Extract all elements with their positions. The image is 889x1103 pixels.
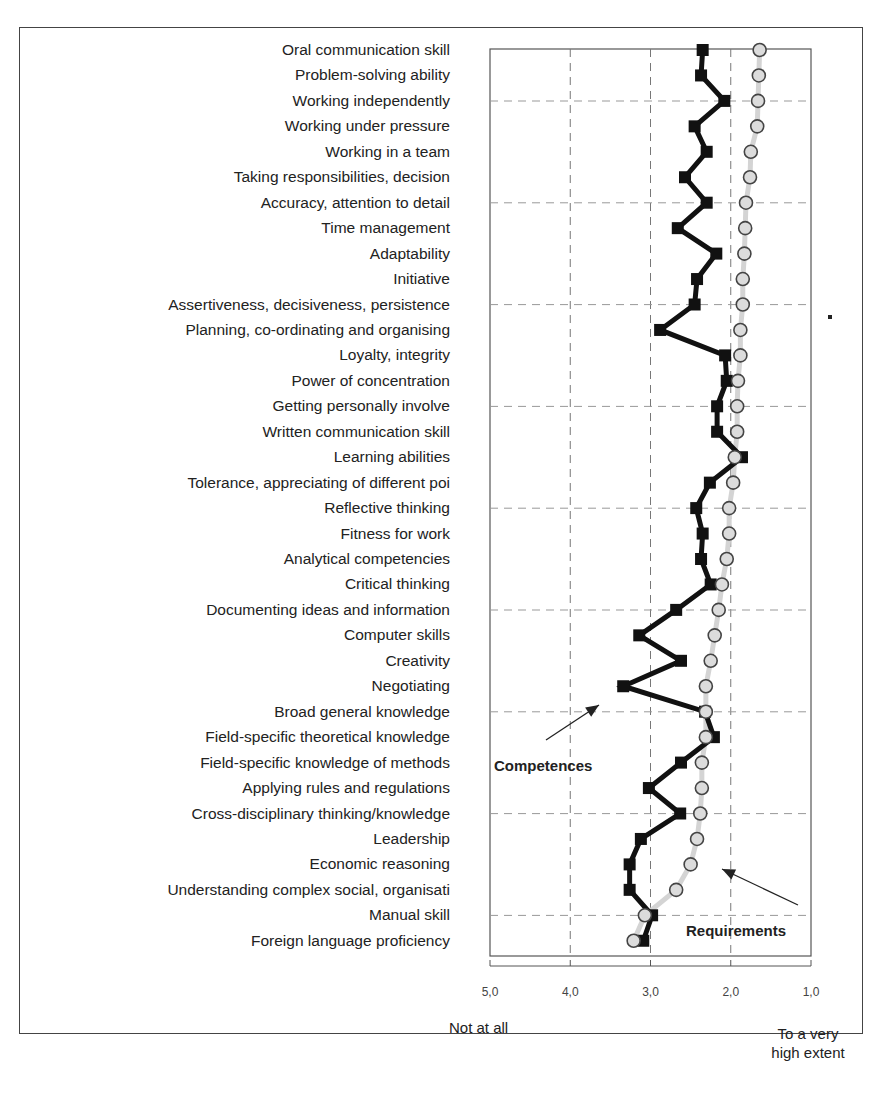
requirements-marker <box>731 425 744 438</box>
competences-marker <box>704 477 716 489</box>
scale-high-label: To a very high extent <box>763 1024 853 1062</box>
competences-marker <box>689 120 701 132</box>
competences-marker <box>711 400 723 412</box>
requirements-marker <box>744 171 757 184</box>
competences-marker <box>719 349 731 361</box>
requirements-marker <box>752 94 765 107</box>
competences-marker <box>672 222 684 234</box>
competences-marker <box>689 299 701 311</box>
competences-marker <box>643 782 655 794</box>
requirements-line <box>634 50 760 941</box>
competences-marker <box>674 808 686 820</box>
competences-marker <box>633 629 645 641</box>
requirements-marker <box>670 883 683 896</box>
competences-marker <box>695 69 707 81</box>
requirements-marker <box>627 934 640 947</box>
competences-marker <box>691 273 703 285</box>
requirements-marker <box>720 553 733 566</box>
competences-marker <box>697 528 709 540</box>
requirements-marker <box>738 247 751 260</box>
requirements-marker <box>715 578 728 591</box>
x-tick-label: 4,0 <box>562 985 579 999</box>
requirements-marker <box>744 145 757 158</box>
requirements-marker <box>734 323 747 336</box>
requirements-marker <box>695 782 708 795</box>
requirements-marker <box>699 705 712 718</box>
requirements-marker <box>731 374 744 387</box>
competences-marker <box>697 44 709 56</box>
competences-marker <box>701 197 713 209</box>
requirements-marker <box>752 69 765 82</box>
requirements-marker <box>736 298 749 311</box>
requirements-marker <box>699 680 712 693</box>
x-tick-label: 2,0 <box>722 985 739 999</box>
competences-marker <box>624 884 636 896</box>
requirements-marker <box>751 120 764 133</box>
requirements-marker <box>684 858 697 871</box>
competences-marker <box>690 502 702 514</box>
scale-high-label-line1: To a very <box>763 1024 853 1043</box>
competences-marker <box>670 604 682 616</box>
scale-high-label-line2: high extent <box>763 1043 853 1062</box>
requirements-marker <box>704 654 717 667</box>
requirements-marker <box>638 909 651 922</box>
requirements-marker <box>699 731 712 744</box>
requirements-marker <box>723 527 736 540</box>
requirements-annotation: Requirements <box>686 922 786 939</box>
scale-low-label: Not at all <box>449 1018 508 1037</box>
competences-marker <box>624 858 636 870</box>
requirements-marker <box>753 44 766 57</box>
requirements-marker <box>708 629 721 642</box>
x-tick-label: 1,0 <box>803 985 820 999</box>
stray-mark <box>828 315 832 319</box>
competences-arrow-arrowhead <box>585 705 599 717</box>
competences-marker <box>710 248 722 260</box>
competences-marker <box>654 324 666 336</box>
requirements-marker <box>739 222 752 235</box>
requirements-marker <box>728 451 741 464</box>
requirements-marker <box>727 476 740 489</box>
competences-marker <box>617 680 629 692</box>
competences-marker <box>701 146 713 158</box>
competences-marker <box>711 426 723 438</box>
requirements-marker <box>695 756 708 769</box>
requirements-marker <box>736 273 749 286</box>
x-tick-label: 5,0 <box>482 985 499 999</box>
competences-marker <box>675 655 687 667</box>
requirements-marker <box>723 502 736 515</box>
requirements-marker <box>694 807 707 820</box>
competences-marker <box>635 833 647 845</box>
competences-marker <box>679 171 691 183</box>
competences-marker <box>695 553 707 565</box>
requirements-marker <box>712 603 725 616</box>
competences-marker <box>675 757 687 769</box>
requirements-marker <box>731 400 744 413</box>
competences-line <box>623 50 742 941</box>
competences-marker <box>718 95 730 107</box>
competences-annotation: Competences <box>494 757 592 774</box>
requirements-marker <box>691 832 704 845</box>
requirements-marker <box>739 196 752 209</box>
requirements-marker <box>734 349 747 362</box>
x-tick-label: 3,0 <box>642 985 659 999</box>
